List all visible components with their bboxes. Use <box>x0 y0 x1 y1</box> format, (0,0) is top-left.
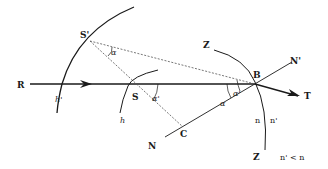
label-h-prime: h' <box>55 95 62 104</box>
wavefront-arc-h-prime <box>57 7 134 113</box>
label-S-prime: S' <box>80 30 89 40</box>
label-h: h <box>120 116 125 125</box>
refraction-diagram: S' R h' S h α α' Z N' B α α' T C N n n' … <box>0 0 328 169</box>
label-N: N <box>148 141 156 151</box>
normal-line <box>165 62 292 137</box>
label-alpha-S-prime: α <box>111 48 117 57</box>
label-Z-top: Z <box>203 40 210 50</box>
arrow-icon <box>287 89 300 96</box>
label-T: T <box>304 91 311 101</box>
label-N-prime: N' <box>290 56 301 66</box>
label-C: C <box>180 129 187 139</box>
label-Z-bottom: Z <box>253 152 260 162</box>
label-condition: n' < n <box>280 153 304 162</box>
label-n-prime: n' <box>270 116 277 125</box>
label-S: S <box>132 92 139 102</box>
label-alpha-B: α <box>220 99 226 108</box>
angle-alpha-at-B <box>227 84 231 98</box>
wavefront-arc-h <box>120 70 158 113</box>
label-alpha-prime-B: α' <box>233 89 241 98</box>
label-B: B <box>253 70 261 80</box>
label-R: R <box>17 80 25 90</box>
label-alpha-prime-S: α' <box>152 94 160 103</box>
label-n: n <box>255 116 260 125</box>
